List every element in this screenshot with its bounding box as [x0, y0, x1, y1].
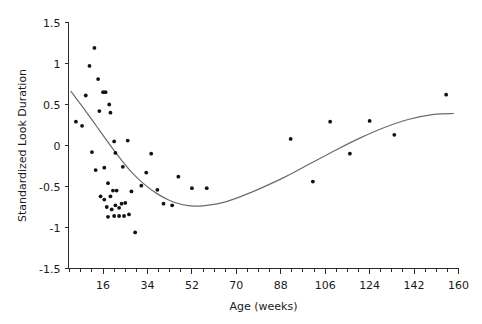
- y-tick-label: -1: [50, 222, 61, 235]
- data-point: [155, 188, 159, 192]
- data-point: [289, 137, 293, 141]
- data-point: [311, 180, 315, 184]
- x-tick-label: 34: [140, 279, 154, 292]
- data-point: [106, 181, 110, 185]
- y-tick-label: 1.5: [43, 17, 61, 30]
- data-point: [190, 186, 194, 190]
- x-tick-label: 16: [96, 279, 110, 292]
- data-point: [97, 109, 101, 113]
- data-point: [94, 168, 98, 172]
- data-point: [114, 203, 118, 207]
- data-point: [392, 133, 396, 137]
- data-point: [102, 166, 106, 170]
- data-point: [170, 203, 174, 207]
- axis-ticks: [65, 23, 459, 274]
- data-points: [74, 46, 448, 234]
- data-point: [368, 119, 372, 123]
- data-point: [120, 202, 124, 206]
- data-point: [107, 103, 111, 107]
- x-tick-label: 88: [274, 279, 288, 292]
- data-point: [121, 165, 125, 169]
- data-point: [110, 208, 114, 212]
- data-point: [90, 150, 94, 154]
- y-tick-label: 1: [54, 58, 61, 71]
- fit-curve: [71, 91, 454, 206]
- data-point: [96, 77, 100, 81]
- data-point: [149, 152, 153, 156]
- data-point: [176, 175, 180, 179]
- data-point: [123, 201, 127, 205]
- data-point: [84, 94, 88, 98]
- x-tick-label: 52: [185, 279, 199, 292]
- data-point: [144, 171, 148, 175]
- data-point: [117, 214, 121, 218]
- data-point: [104, 90, 108, 94]
- data-point: [106, 215, 110, 219]
- x-tick-label: 160: [448, 279, 469, 292]
- data-point: [112, 214, 116, 218]
- y-tick-label: -1.5: [39, 263, 60, 276]
- data-point: [130, 190, 134, 194]
- data-point: [133, 231, 137, 235]
- data-point: [328, 120, 332, 124]
- x-axis-title: Age (weeks): [230, 300, 298, 313]
- data-point: [114, 151, 118, 155]
- data-point: [126, 139, 130, 143]
- data-point: [112, 140, 116, 144]
- x-tick-label: 124: [359, 279, 380, 292]
- scatter-plot: -1.5-1-0.500.511.51634527088106124142160…: [0, 0, 482, 324]
- data-point: [117, 206, 121, 210]
- data-point: [127, 212, 131, 216]
- data-point: [111, 189, 115, 193]
- y-tick-label: 0: [54, 140, 61, 153]
- y-axis-title: Standardized Look Duration: [16, 69, 29, 222]
- axes: [69, 23, 459, 269]
- x-tick-label: 106: [315, 279, 336, 292]
- data-point: [122, 214, 126, 218]
- data-point: [105, 205, 109, 209]
- data-point: [74, 120, 78, 124]
- data-point: [444, 93, 448, 97]
- data-point: [88, 64, 92, 68]
- data-point: [162, 202, 166, 206]
- y-tick-label: 0.5: [43, 99, 61, 112]
- data-point: [139, 184, 143, 188]
- data-point: [348, 152, 352, 156]
- x-tick-label: 70: [229, 279, 243, 292]
- data-point: [80, 124, 84, 128]
- regression-curve: [71, 91, 454, 206]
- data-point: [109, 111, 113, 115]
- y-tick-label: -0.5: [39, 181, 60, 194]
- data-point: [102, 198, 106, 202]
- data-point: [115, 189, 119, 193]
- data-point: [99, 194, 103, 198]
- data-point: [93, 46, 97, 50]
- chart-figure: -1.5-1-0.500.511.51634527088106124142160…: [0, 0, 482, 324]
- data-point: [205, 186, 209, 190]
- data-point: [109, 194, 113, 198]
- x-tick-label: 142: [404, 279, 425, 292]
